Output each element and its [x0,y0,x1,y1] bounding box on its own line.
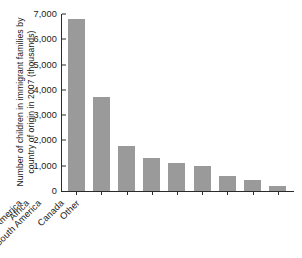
bar [143,158,160,191]
x-tick-mark [202,191,203,195]
x-tick-mark [152,191,153,195]
bar-chart: Number of children in immigrant families… [0,0,302,258]
bar [118,146,135,192]
bar-slot [164,14,189,191]
bar [194,166,211,191]
bar-slot [265,14,290,191]
x-tick-mark [227,191,228,195]
bar-series [62,14,294,191]
bar [244,180,261,191]
y-tick-label: 4,000 [34,85,63,95]
y-tick-label: 1,000 [34,161,63,171]
y-tick-label: 5,000 [34,60,63,70]
bar-slot [190,14,215,191]
x-tick-mark [101,191,102,195]
bar-slot [215,14,240,191]
bar [168,163,185,191]
x-tick-mark [253,191,254,195]
bar [93,97,110,191]
x-tick-mark [177,191,178,195]
bar-slot [139,14,164,191]
x-tick-mark [127,191,128,195]
bar-slot [240,14,265,191]
y-tick-label: 2,000 [34,135,63,145]
bar [68,19,85,191]
bar [219,176,236,191]
bar-slot [64,14,89,191]
y-tick-label: 7,000 [34,9,63,19]
bar-slot [114,14,139,191]
bar-slot [89,14,114,191]
y-tick-label: 3,000 [34,110,63,120]
plot-area: 01,0002,0003,0004,0005,0006,0007,000 Mex… [61,14,294,192]
x-tick-mark [76,191,77,195]
y-tick-label: 0 [52,186,62,196]
y-tick-label: 6,000 [34,34,63,44]
x-tick-mark [278,191,279,195]
